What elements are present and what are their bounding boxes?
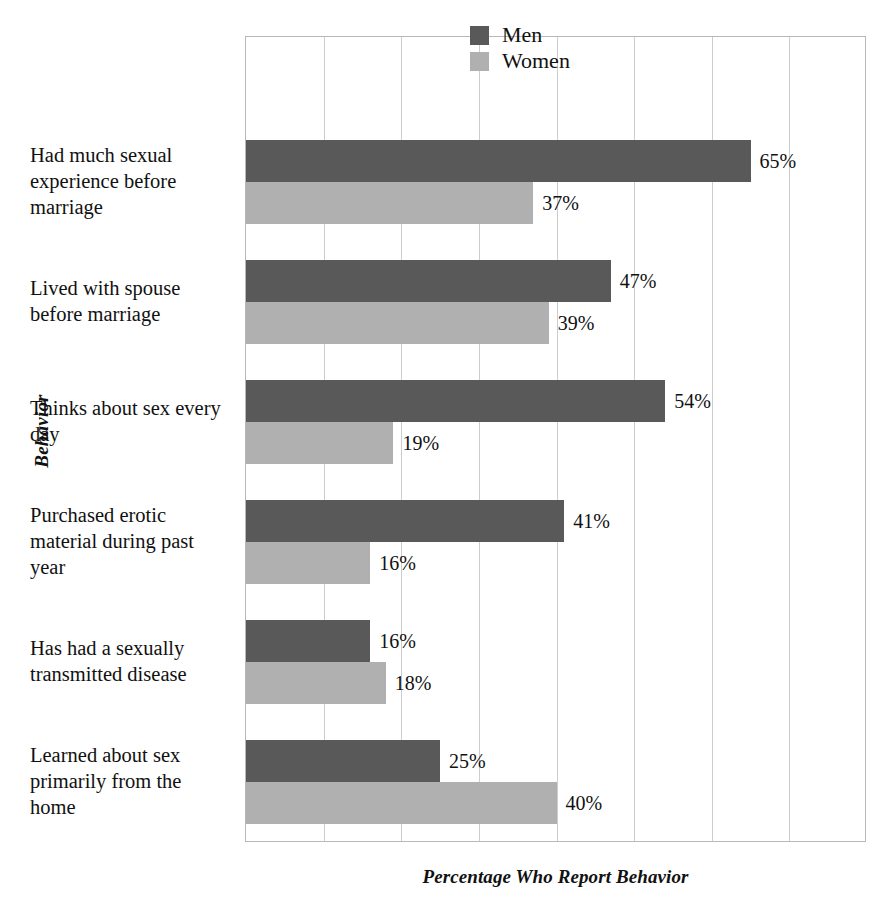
bar-value-label: 54%	[665, 390, 711, 413]
plot-area: 65%37%47%39%54%19%41%16%16%18%25%40%	[245, 36, 866, 842]
legend-item-men[interactable]: Men	[470, 23, 570, 47]
bar-row: 41%	[246, 500, 865, 542]
category-label: Purchased erotic material during past ye…	[30, 502, 230, 580]
bar-value-label: 39%	[549, 312, 595, 335]
legend-label: Women	[502, 49, 570, 73]
bar-value-label: 41%	[564, 510, 610, 533]
category-label: Lived with spouse before marriage	[30, 275, 230, 327]
women-swatch-icon	[470, 52, 489, 71]
category-label: Learned about sex primarily from the hom…	[30, 742, 230, 820]
category-label-list: Had much sexual experience before marria…	[30, 36, 230, 842]
bar-women[interactable]	[246, 782, 557, 824]
bar-group: 16%18%	[246, 620, 865, 704]
bar-value-label: 65%	[751, 150, 797, 173]
men-swatch-icon	[470, 26, 489, 45]
bar-value-label: 18%	[386, 672, 432, 695]
bar-value-label: 16%	[370, 552, 416, 575]
bar-men[interactable]	[246, 380, 665, 422]
bar-value-label: 16%	[370, 630, 416, 653]
bar-row: 19%	[246, 422, 865, 464]
bar-row: 37%	[246, 182, 865, 224]
bar-women[interactable]	[246, 302, 549, 344]
legend-label: Men	[502, 23, 542, 47]
chart-legend: MenWomen	[470, 23, 570, 73]
bar-men[interactable]	[246, 740, 440, 782]
bar-row: 40%	[246, 782, 865, 824]
category-label: Thinks about sex every day	[30, 395, 230, 447]
bar-women[interactable]	[246, 182, 533, 224]
bar-row: 25%	[246, 740, 865, 782]
bar-value-label: 25%	[440, 750, 486, 773]
x-axis-title: Percentage Who Report Behavior	[245, 866, 866, 888]
bar-row: 18%	[246, 662, 865, 704]
category-label: Has had a sexually transmitted disease	[30, 635, 230, 687]
bar-value-label: 19%	[393, 432, 439, 455]
bar-group: 54%19%	[246, 380, 865, 464]
bar-row: 16%	[246, 542, 865, 584]
bar-men[interactable]	[246, 500, 564, 542]
bar-value-label: 40%	[557, 792, 603, 815]
bar-row: 54%	[246, 380, 865, 422]
bar-row: 16%	[246, 620, 865, 662]
bar-men[interactable]	[246, 620, 370, 662]
bar-women[interactable]	[246, 542, 370, 584]
bar-group: 41%16%	[246, 500, 865, 584]
bar-women[interactable]	[246, 422, 393, 464]
bar-row: 47%	[246, 260, 865, 302]
bar-row: 65%	[246, 140, 865, 182]
bar-value-label: 37%	[533, 192, 579, 215]
bar-men[interactable]	[246, 140, 751, 182]
legend-item-women[interactable]: Women	[470, 49, 570, 73]
bar-row: 39%	[246, 302, 865, 344]
bar-group: 47%39%	[246, 260, 865, 344]
bar-women[interactable]	[246, 662, 386, 704]
category-label: Had much sexual experience before marria…	[30, 142, 230, 220]
bar-chart: Behavior Had much sexual experience befo…	[0, 0, 887, 909]
bar-value-label: 47%	[611, 270, 657, 293]
bar-group: 25%40%	[246, 740, 865, 824]
bar-group: 65%37%	[246, 140, 865, 224]
bar-men[interactable]	[246, 260, 611, 302]
